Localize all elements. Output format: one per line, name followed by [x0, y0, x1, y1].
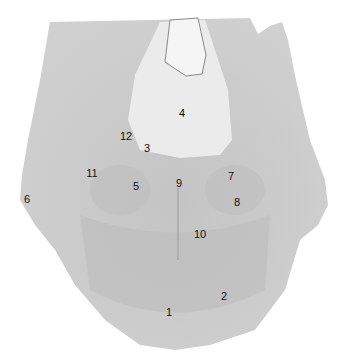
specimen-image: 4 12 3 11 7 9 5 6 8 10 2 1 [0, 0, 348, 362]
label-8: 8 [234, 197, 240, 208]
tissue-section-graphic [0, 0, 348, 362]
label-4: 4 [179, 108, 185, 119]
label-1: 1 [166, 307, 172, 318]
label-5: 5 [133, 181, 139, 192]
label-6: 6 [24, 194, 30, 205]
label-7: 7 [228, 171, 234, 182]
label-9: 9 [176, 178, 182, 189]
label-3: 3 [144, 143, 150, 154]
label-2: 2 [221, 291, 227, 302]
label-10: 10 [194, 229, 206, 240]
label-11: 11 [86, 168, 97, 179]
label-12: 12 [120, 131, 132, 142]
